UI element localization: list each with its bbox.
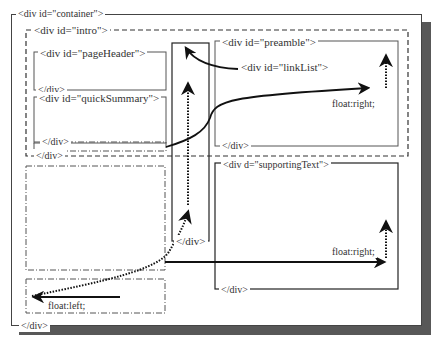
intro-close-tag: </div> <box>34 150 65 162</box>
container-close-tag: </div> <box>19 320 50 332</box>
preamble-close-tag: </div> <box>220 140 251 152</box>
quicksummary-close-tag: </div> <box>40 136 71 148</box>
linklist-open-tag: <div id="linkList"> <box>239 61 330 73</box>
preamble-open-tag: <div id="preamble"> <box>220 36 318 48</box>
linklist-close-tag: </div> <box>174 235 208 247</box>
quicksummary-open-tag: <div id="quickSummary"> <box>37 92 161 104</box>
float-left-label: float:left; <box>46 300 87 312</box>
supportingtext-float-label: float:right; <box>330 246 377 258</box>
pageheader-open-tag: <div id="pageHeader"> <box>38 47 147 59</box>
supportingtext-open-tag: <div d="supportingText"> <box>221 159 331 171</box>
supportingtext-close-tag: </div> <box>219 284 250 296</box>
preamble-float-label: float:right; <box>330 98 377 110</box>
intro-open-tag: <div id="intro"> <box>32 24 110 36</box>
container-open-tag: <div id="container"> <box>16 8 105 20</box>
